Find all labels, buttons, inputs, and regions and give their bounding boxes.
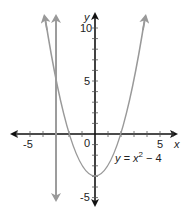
y-tick-label-neg5: -5	[80, 191, 90, 203]
equation-label: y = x2 − 4	[114, 150, 162, 164]
function-graph: y x -5 0 5 10 5 -5 y = x2 − 4	[0, 0, 188, 216]
x-axis-label: x	[173, 138, 180, 150]
x-tick-label-neg5: -5	[23, 138, 33, 150]
y-tick-label-5: 5	[84, 75, 90, 87]
equation-prefix: y = x	[114, 152, 139, 164]
svg-text:y = x2 − 4: y = x2 − 4	[114, 150, 162, 164]
origin-label: 0	[84, 137, 90, 149]
x-tick-label-5: 5	[157, 138, 163, 150]
y-tick-label-10: 10	[80, 22, 92, 34]
equation-suffix: − 4	[143, 152, 162, 164]
x-axis	[12, 131, 176, 137]
